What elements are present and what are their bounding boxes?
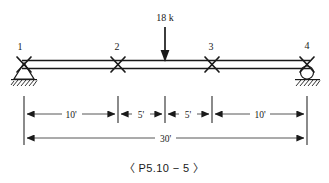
dimension-segment-3: 5' [168, 110, 209, 120]
pin-support-hatching [11, 80, 37, 86]
dimension-segment-1: 10' [27, 110, 115, 120]
dimension-label-segment-3: 5' [185, 110, 192, 120]
roller-support-hatching [296, 80, 320, 86]
joint-mark-4 [300, 57, 314, 72]
load-label: 18 k [156, 12, 174, 23]
joint-label-1: 1 [18, 41, 23, 52]
internal-hinge-3 [205, 57, 219, 72]
point-load-group: 18 k [156, 12, 174, 62]
dimension-label-segment-1: 10' [65, 110, 77, 120]
joint-label-3: 3 [209, 41, 214, 52]
dimension-label-total: 30' [160, 134, 172, 144]
beam-diagram-figure: 18 k 1 2 3 4 [0, 0, 329, 183]
total-dimension-row: 30' [27, 134, 304, 144]
joint-label-4: 4 [305, 40, 310, 51]
dimension-label-segment-2: 5' [138, 110, 145, 120]
joint-label-2: 2 [115, 41, 120, 52]
dimension-segment-2: 5' [121, 110, 162, 120]
beam-member [22, 61, 310, 69]
beam-diagram-canvas: 18 k 1 2 3 4 [0, 0, 329, 183]
dimension-label-segment-4: 10' [254, 110, 266, 120]
figure-caption: 〈 P5.10 − 5 〉 [124, 162, 205, 174]
pin-support-icon [11, 63, 37, 86]
dimension-segment-4: 10' [215, 110, 304, 120]
internal-hinge-2 [111, 57, 125, 72]
